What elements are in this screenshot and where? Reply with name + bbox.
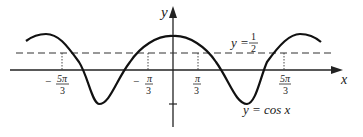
half-den: 2 xyxy=(251,43,256,54)
tick-num: 5π xyxy=(57,73,68,84)
tick-sign: − xyxy=(45,75,51,87)
tick-sign: − xyxy=(133,75,139,87)
tick-num: π xyxy=(147,73,153,84)
tick-num: 5π xyxy=(280,73,291,84)
curve-label: y = cos x xyxy=(241,102,291,117)
y-axis-arrow-icon xyxy=(169,6,177,18)
tick-den: 3 xyxy=(146,85,151,96)
x-axis-label: x xyxy=(340,72,348,87)
tick-num: π xyxy=(195,73,201,84)
half-num: 1 xyxy=(251,31,256,42)
tick-den: 3 xyxy=(283,85,288,96)
tick-den: 3 xyxy=(194,85,199,96)
tick-den: 3 xyxy=(60,85,65,96)
y-axis-label: y xyxy=(159,4,168,20)
half-line-label: y = xyxy=(229,35,249,50)
cosine-diagram: y x y = 1 2 − 5π 3 − π 3 π 3 5π 3 y = co… xyxy=(0,0,363,137)
